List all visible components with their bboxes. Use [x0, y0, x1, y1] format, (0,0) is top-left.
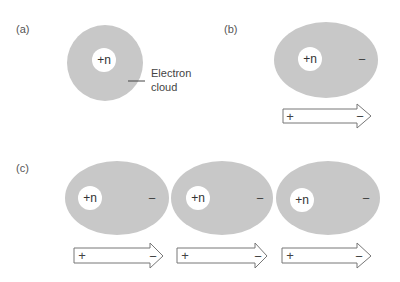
panel-a-label: (a) — [16, 23, 29, 35]
nucleus-label: +n — [83, 191, 97, 205]
atom-3: +n − + − — [276, 161, 380, 268]
panel-b-label: (b) — [224, 23, 237, 35]
nucleus-label: +n — [303, 52, 317, 66]
arrow-minus: − — [356, 109, 364, 124]
atom-1: +n − + − — [65, 161, 169, 268]
panel-c-label: (c) — [16, 162, 29, 174]
panel-b: (b) +n − + − — [224, 22, 378, 128]
nucleus-label: +n — [97, 53, 111, 67]
polarization-diagram: (a) +n Electron cloud (b) +n − + − (c) +… — [0, 0, 400, 282]
arrow-minus: − — [355, 249, 363, 264]
arrow-plus: + — [181, 248, 189, 263]
nucleus-label: +n — [295, 193, 309, 207]
negative-sign: − — [256, 191, 264, 206]
arrow-plus: + — [286, 248, 294, 263]
arrow-plus: + — [286, 109, 294, 124]
panel-c: (c) +n − + − +n − + − +n − + — [16, 161, 380, 268]
annotation-electron: Electron — [151, 67, 191, 79]
negative-sign: − — [358, 52, 366, 67]
annotation-cloud: cloud — [151, 81, 177, 93]
negative-sign: − — [148, 191, 156, 206]
arrow-minus: − — [149, 249, 157, 264]
nucleus-label: +n — [191, 191, 205, 205]
negative-sign: − — [362, 191, 370, 206]
atom-2: +n − + − — [171, 161, 273, 268]
arrow-plus: + — [78, 248, 86, 263]
arrow-minus: − — [254, 249, 262, 264]
panel-a: (a) +n Electron cloud — [16, 23, 191, 101]
